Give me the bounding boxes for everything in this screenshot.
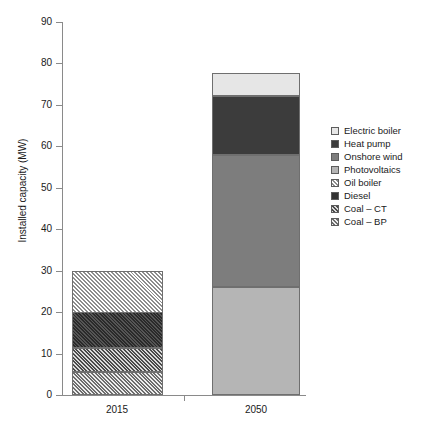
legend-label-diesel: Diesel [344,191,370,201]
legend-swatch-photovoltaics-icon [331,166,339,174]
legend-swatch-coal-bp-icon [331,218,339,226]
bar-2015-segment-coal-bp[interactable] [72,372,163,395]
legend-item-oil-boiler[interactable]: Oil boiler [331,176,421,189]
legend-label-coal-ct: Coal – CT [344,204,387,214]
y-tick-label-40: 40 [10,224,52,234]
legend-label-heat-pump: Heat pump [344,139,390,149]
legend-item-photovoltaics[interactable]: Photovoltaics [331,163,421,176]
y-tick-mark-70 [56,105,62,106]
legend-swatch-electric-boiler-icon [331,127,339,135]
y-tick-label-0: 0 [10,390,52,400]
x-tick-label-2050: 2050 [216,404,296,415]
y-tick-label-10: 10 [10,349,52,359]
y-tick-mark-90 [56,22,62,23]
legend-swatch-coal-ct-icon [331,205,339,213]
x-tick-mark-2015-2050-divider [184,395,185,401]
bar-2050-segment-electric-boiler[interactable] [212,73,300,96]
x-tick-label-2015: 2015 [77,404,157,415]
y-tick-mark-50 [56,188,62,189]
y-tick-label-20: 20 [10,307,52,317]
bar-chart: Installed capacity (MW) 90 80 70 60 50 4… [0,0,423,430]
y-tick-mark-40 [56,229,62,230]
bar-2050-segment-heat-pump[interactable] [212,96,300,155]
y-tick-label-90: 90 [10,17,52,27]
chart-legend: Electric boiler Heat pump Onshore wind P… [331,124,421,229]
y-tick-mark-60 [56,146,62,147]
bar-2050-segment-onshore-wind[interactable] [212,155,300,287]
y-tick-label-70: 70 [10,100,52,110]
legend-label-oil-boiler: Oil boiler [344,178,382,188]
legend-item-coal-bp[interactable]: Coal – BP [331,216,421,229]
y-tick-mark-20 [56,312,62,313]
legend-swatch-heat-pump-icon [331,140,339,148]
bar-2015-segment-diesel[interactable] [72,312,163,348]
y-tick-mark-10 [56,354,62,355]
bar-2050-segment-photovoltaics[interactable] [212,287,300,395]
y-tick-label-60: 60 [10,141,52,151]
y-tick-mark-80 [56,63,62,64]
legend-item-onshore-wind[interactable]: Onshore wind [331,150,421,163]
legend-label-onshore-wind: Onshore wind [344,152,403,162]
legend-label-photovoltaics: Photovoltaics [344,165,401,175]
bar-2015-segment-oil-boiler[interactable] [72,271,163,313]
legend-swatch-onshore-wind-icon [331,153,339,161]
y-tick-mark-0 [56,395,62,396]
legend-swatch-oil-boiler-icon [331,179,339,187]
legend-label-coal-bp: Coal – BP [344,217,387,227]
y-tick-label-30: 30 [10,266,52,276]
legend-item-coal-ct[interactable]: Coal – CT [331,203,421,216]
bar-2015-segment-coal-ct[interactable] [72,348,163,372]
legend-item-diesel[interactable]: Diesel [331,189,421,202]
legend-item-electric-boiler[interactable]: Electric boiler [331,124,421,137]
legend-item-heat-pump[interactable]: Heat pump [331,137,421,150]
legend-label-electric-boiler: Electric boiler [344,126,401,136]
legend-swatch-diesel-icon [331,192,339,200]
y-axis-line [62,22,63,396]
y-tick-mark-30 [56,271,62,272]
y-tick-label-50: 50 [10,183,52,193]
y-tick-label-80: 80 [10,58,52,68]
